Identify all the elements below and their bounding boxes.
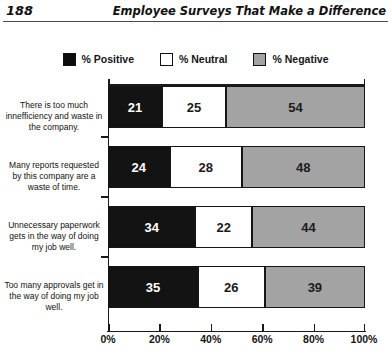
category-label-3: Too many approvals get in the way of doi… <box>4 280 104 313</box>
x-axis-labels: 0% 20% 40% 60% 80% 100% <box>0 333 391 349</box>
legend-swatch-neutral-icon <box>160 53 173 66</box>
bar-segment-negative: 39 <box>265 266 365 308</box>
legend-swatch-negative-icon <box>253 53 266 66</box>
category-label-0: There is too much innefficiency and wast… <box>4 100 104 133</box>
x-axis-ticks <box>108 324 365 332</box>
bar-segment-negative: 44 <box>252 206 365 248</box>
bar-segment-positive: 35 <box>108 266 198 308</box>
bar-segment-positive: 34 <box>108 206 195 248</box>
page-number: 188 <box>6 3 33 18</box>
legend-label-positive: % Positive <box>82 53 135 65</box>
legend-item-positive: % Positive <box>63 53 135 66</box>
category-label-1: Many reports requested by this company a… <box>4 160 104 193</box>
x-axis-label-60: 60% <box>239 333 285 345</box>
header-rule <box>3 21 388 22</box>
axis-top-cap-right <box>364 79 366 85</box>
x-tick-80 <box>314 324 316 331</box>
x-tick-0 <box>108 324 110 331</box>
book-title: Employee Surveys That Make a Difference <box>113 4 386 18</box>
legend-label-neutral: % Neutral <box>179 53 227 65</box>
bar-row: 34 22 44 <box>108 206 365 248</box>
stacked-bar-chart: There is too much innefficiency and wast… <box>0 78 391 358</box>
bar-segment-negative: 48 <box>242 146 365 188</box>
legend-item-negative: % Negative <box>253 53 328 66</box>
x-axis-label-80: 80% <box>291 333 337 345</box>
x-axis-label-0: 0% <box>85 333 131 345</box>
legend-label-negative: % Negative <box>272 53 328 65</box>
page-header: 188 Employee Surveys That Make a Differe… <box>0 0 391 26</box>
legend-item-neutral: % Neutral <box>160 53 227 66</box>
x-tick-40 <box>211 324 213 331</box>
bar-segment-positive: 21 <box>108 86 162 128</box>
category-label-2: Unnecessary paperwork gets in the way of… <box>4 220 104 253</box>
x-axis-label-40: 40% <box>188 333 234 345</box>
bar-row: 24 28 48 <box>108 146 365 188</box>
bar-segment-negative: 54 <box>226 86 365 128</box>
x-tick-20 <box>159 324 161 331</box>
x-axis-label-100: 100% <box>341 333 387 345</box>
x-tick-100 <box>364 324 366 331</box>
x-axis-label-20: 20% <box>136 333 182 345</box>
bar-segment-positive: 24 <box>108 146 170 188</box>
plot-area: 21 25 54 24 28 48 34 22 44 35 26 39 <box>108 84 365 332</box>
bar-segment-neutral: 22 <box>195 206 252 248</box>
bar-segment-neutral: 25 <box>162 86 226 128</box>
bar-row: 35 26 39 <box>108 266 365 308</box>
x-tick-60 <box>262 324 264 331</box>
bar-segment-neutral: 28 <box>170 146 242 188</box>
bar-rows: 21 25 54 24 28 48 34 22 44 35 26 39 <box>108 86 365 308</box>
bar-segment-neutral: 26 <box>198 266 265 308</box>
chart-legend: % Positive % Neutral % Negative <box>0 50 391 68</box>
bar-row: 21 25 54 <box>108 86 365 128</box>
legend-swatch-positive-icon <box>63 53 76 66</box>
